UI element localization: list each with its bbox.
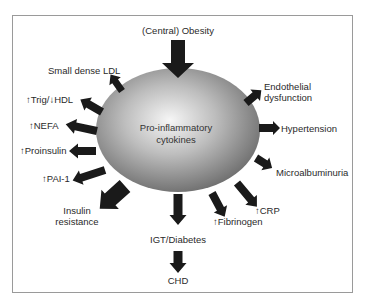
core-label: Pro-inflammatory cytokines [140,122,212,146]
microalbuminuria-label: Microalbuminuria [276,167,348,178]
chd-arrow [170,251,187,273]
trig-hdl-label: ↑Trig/↓HDL [26,94,73,105]
obesity-label: (Central) Obesity [142,25,214,36]
endothelial-label: Endothelial dysfunction [264,81,312,103]
nefa-arrow [64,117,98,138]
nefa-label: ↑NEFA [29,120,59,131]
endothelial-line2: dysfunction [264,92,312,103]
insulin-resistance-line1: Insulin [55,205,98,216]
core-label-line1: Pro-inflammatory [140,122,212,134]
microalbuminuria-arrow [252,152,276,175]
pai1-label: ↑PAI-1 [42,173,70,184]
hypertension-arrow [259,121,280,135]
igt-diabetes-arrow [170,194,187,225]
endothelial-line1: Endothelial [264,81,312,92]
chd-label: CHD [168,275,189,286]
insulin-resistance-label: Insulin resistance [55,205,98,227]
core-label-line2: cytokines [140,134,212,146]
proinsulin-label: ↑Proinsulin [20,145,66,156]
crp-label: ↑CRP [255,205,280,216]
small-dense-ldl-label: Small dense LDL [48,65,120,76]
pai1-arrow [70,163,107,188]
proinsulin-arrow [69,144,96,159]
fibrinogen-label: ↑Fibrinogen [213,216,263,227]
hypertension-label: Hypertension [281,123,337,134]
insulin-resistance-line2: resistance [55,216,98,227]
igt-diabetes-label: IGT/Diabetes [150,234,206,245]
